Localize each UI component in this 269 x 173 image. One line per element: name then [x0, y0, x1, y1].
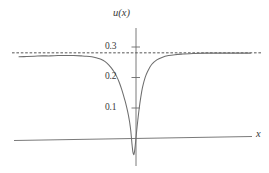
- x-axis-title: x: [256, 128, 261, 139]
- y-axis-title: u(x): [113, 7, 130, 18]
- figure-canvas: u(x) x 0.3 0.2 0.1: [0, 0, 269, 173]
- y-tick-label-0.1: 0.1: [105, 102, 116, 112]
- y-tick-label-0.3: 0.3: [105, 41, 116, 51]
- plot-area: [0, 0, 269, 173]
- y-tick-label-0.2: 0.2: [105, 71, 116, 81]
- x-axis: [14, 137, 252, 141]
